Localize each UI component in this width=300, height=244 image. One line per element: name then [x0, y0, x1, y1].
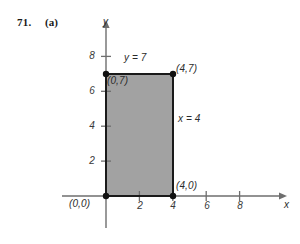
x-tick-label-6: 6: [201, 200, 213, 211]
coordinate-plane-figure: [0, 0, 300, 244]
label-point-4-7: (4,7): [176, 63, 197, 74]
label-point-0-0: (0,0): [69, 198, 90, 209]
x-axis-label: x: [284, 199, 289, 210]
label-point-4-0: (4,0): [176, 180, 197, 191]
x-tick-label-4: 4: [167, 200, 179, 211]
y-tick-label-4: 4: [86, 120, 98, 131]
y-tick-label-2: 2: [86, 155, 98, 166]
shaded-region: [106, 74, 173, 196]
x-tick-label-8: 8: [234, 200, 246, 211]
figure-page: 71. (a) y x 2: [0, 0, 300, 244]
label-point-0-7: (0,7): [107, 75, 128, 86]
label-x-equals-4: x = 4: [178, 113, 200, 124]
vertex-point-4-0: [170, 193, 176, 199]
x-tick-label-2: 2: [134, 200, 146, 211]
vertex-point-0-0: [103, 193, 109, 199]
y-tick-label-8: 8: [86, 50, 98, 61]
y-tick-label-6: 6: [86, 85, 98, 96]
y-axis-label: y: [103, 16, 108, 27]
label-y-equals-7: y = 7: [124, 52, 146, 63]
